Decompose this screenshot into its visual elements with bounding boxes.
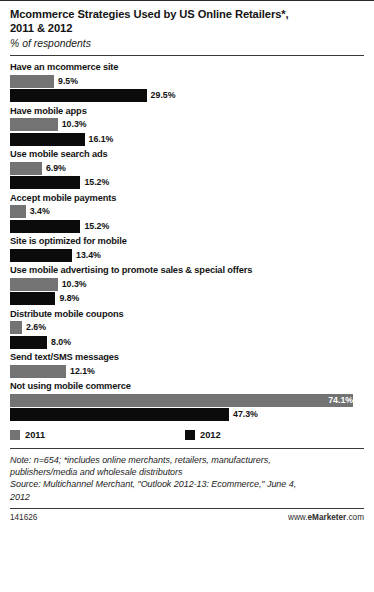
bar-group: Not using mobile commerce74.1%47.3% [10, 381, 364, 421]
bar-value-label: 15.2% [84, 176, 109, 189]
bar-2011 [10, 162, 42, 175]
header-divider [10, 55, 364, 56]
bar-row: 2.6% [10, 321, 364, 334]
note-text: Note: n=654; *includes online merchants,… [10, 454, 364, 478]
bar-value-label: 10.3% [62, 118, 87, 131]
bar-2012 [10, 220, 80, 233]
bar-2011 [10, 118, 58, 131]
bar-group-label: Distribute mobile coupons [10, 309, 364, 320]
brand-prefix: www. [288, 513, 308, 522]
bar-row: 8.0% [10, 336, 364, 349]
brand-suffix: .com [346, 513, 364, 522]
bar-2011 [10, 75, 54, 88]
bar-value-label: 29.5% [151, 89, 176, 102]
bar-2011 [10, 365, 66, 378]
bar-2012 [10, 89, 147, 102]
chart-header: Mcommerce Strategies Used by US Online R… [10, 1, 364, 56]
brand-watermark: www.eMarketer.com [288, 513, 364, 522]
bar-group: Have an mcommerce site9.5%29.5% [10, 62, 364, 102]
notes-divider-bottom [10, 508, 364, 509]
bar-row: 29.5% [10, 89, 364, 102]
notes-divider-top [10, 448, 364, 449]
chart-id-bar: 141626 www.eMarketer.com [10, 513, 364, 522]
bar-group: Accept mobile payments3.4%15.2% [10, 193, 364, 233]
chart-notes: Note: n=654; *includes online merchants,… [10, 454, 364, 503]
legend-label-2011: 2011 [25, 430, 45, 440]
bar-chart-plot: Have an mcommerce site9.5%29.5%Have mobi… [10, 62, 364, 421]
chart-subtitle: % of respondents [10, 37, 364, 50]
bar-value-label: 12.1% [70, 365, 95, 378]
bar-value-label: 3.4% [30, 205, 50, 218]
bar-group: Use mobile search ads6.9%15.2% [10, 149, 364, 189]
bar-row: 16.1% [10, 133, 364, 146]
bar-row: 74.1% [10, 394, 364, 407]
bar-group: Send text/SMS messages12.1% [10, 352, 364, 378]
bar-row: 9.8% [10, 292, 364, 305]
chart-id: 141626 [10, 513, 37, 522]
bar-value-label: 2.6% [26, 321, 46, 334]
chart-legend: 2011 2012 [10, 428, 364, 442]
bar-group-label: Site is optimized for mobile [10, 236, 364, 247]
legend-swatch-2012-icon [185, 430, 195, 440]
bar-value-label: 16.1% [89, 133, 114, 146]
bar-value-label: 10.3% [62, 278, 87, 291]
bar-value-label: 13.4% [76, 249, 101, 262]
bar-value-label: 8.0% [51, 336, 71, 349]
bar-row: 12.1% [10, 365, 364, 378]
bar-group-label: Use mobile advertising to promote sales … [10, 265, 364, 276]
bar-group-label: Send text/SMS messages [10, 352, 364, 363]
bar-group: Site is optimized for mobile13.4% [10, 236, 364, 262]
bar-2012 [10, 249, 72, 262]
legend-label-2012: 2012 [200, 430, 221, 440]
legend-item-2011: 2011 [10, 430, 185, 440]
bar-2011: 74.1% [10, 394, 353, 407]
bar-2011 [10, 321, 22, 334]
bar-group-label: Have mobile apps [10, 106, 364, 117]
bar-group-label: Have an mcommerce site [10, 62, 364, 73]
bar-value-label: 6.9% [46, 162, 66, 175]
bar-2012 [10, 292, 55, 305]
bar-group-label: Use mobile search ads [10, 149, 364, 160]
bar-group: Use mobile advertising to promote sales … [10, 265, 364, 305]
bar-value-label: 9.5% [58, 75, 78, 88]
bar-2012 [10, 336, 47, 349]
bar-row: 6.9% [10, 162, 364, 175]
source-text: Source: Multichannel Merchant, "Outlook … [10, 478, 364, 502]
bar-row: 3.4% [10, 205, 364, 218]
bar-2012 [10, 176, 80, 189]
bar-row: 47.3% [10, 408, 364, 421]
bar-group: Have mobile apps10.3%16.1% [10, 106, 364, 146]
legend-swatch-2011-icon [10, 430, 20, 440]
bar-value-label: 9.8% [59, 292, 79, 305]
bar-group-label: Not using mobile commerce [10, 381, 364, 392]
bar-row: 9.5% [10, 75, 364, 88]
page-title: Mcommerce Strategies Used by US Online R… [10, 8, 364, 35]
bar-group: Distribute mobile coupons2.6%8.0% [10, 309, 364, 349]
bar-2012 [10, 133, 85, 146]
bar-2011 [10, 278, 58, 291]
emarketer-chart-card: Mcommerce Strategies Used by US Online R… [0, 0, 374, 592]
bar-2011 [10, 205, 26, 218]
bar-row: 13.4% [10, 249, 364, 262]
bar-group-label: Accept mobile payments [10, 193, 364, 204]
legend-item-2012: 2012 [185, 430, 221, 440]
bar-value-label: 47.3% [233, 408, 258, 421]
bar-value-label: 15.2% [84, 220, 109, 233]
bar-value-label: 74.1% [328, 394, 353, 407]
bar-row: 10.3% [10, 118, 364, 131]
bar-2012 [10, 408, 229, 421]
bar-row: 15.2% [10, 220, 364, 233]
brand-name: eMarketer [308, 513, 347, 522]
bar-row: 15.2% [10, 176, 364, 189]
bar-row: 10.3% [10, 278, 364, 291]
